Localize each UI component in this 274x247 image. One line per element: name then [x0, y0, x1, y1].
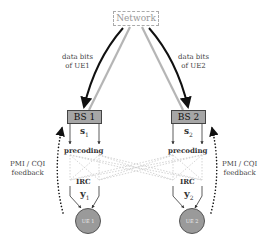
- ue2-antenna-right: [195, 196, 202, 208]
- irc-label-2: IRC: [180, 177, 195, 186]
- received-subscript: 1: [86, 194, 90, 201]
- label-line: data bits: [178, 53, 209, 62]
- irc-label-1: IRC: [76, 177, 91, 186]
- label-line: PMI / CQI: [10, 160, 45, 169]
- feedback-label-right: PMI / CQI feedback: [222, 160, 257, 178]
- label-line: PMI / CQI: [222, 160, 257, 169]
- signal-s1: s1: [80, 127, 89, 139]
- user-equipment-2: UE 2: [179, 208, 205, 234]
- received-y1: y1: [80, 189, 90, 202]
- label-line: feedback: [10, 169, 45, 178]
- data-bits-ue1-label: data bits of UE1: [62, 53, 93, 71]
- label-line: data bits: [62, 53, 93, 62]
- data-bits-ue2-label: data bits of UE2: [178, 53, 209, 71]
- ue1-antenna-right: [92, 196, 99, 208]
- backhaul-line-left-gray: [89, 27, 130, 110]
- diagram-canvas: [0, 0, 274, 247]
- ue2-antenna-left: [173, 196, 184, 208]
- signal-s2: s2: [184, 127, 193, 139]
- signal-subscript: 2: [189, 131, 193, 138]
- base-station-2: BS 2: [171, 110, 206, 124]
- feedback-arrow-right: [211, 128, 217, 213]
- label-line: feedback: [222, 169, 257, 178]
- precoding-label-1: precoding: [64, 146, 104, 155]
- label-line: of UE2: [178, 62, 209, 71]
- feedback-label-left: PMI / CQI feedback: [10, 160, 45, 178]
- label-line: of UE1: [62, 62, 93, 71]
- signal-subscript: 1: [85, 131, 89, 138]
- network-node: Network: [113, 11, 159, 26]
- precoding-label-2: precoding: [168, 146, 208, 155]
- received-subscript: 2: [190, 194, 194, 201]
- user-equipment-1: UE 1: [75, 208, 101, 234]
- received-y2: y2: [184, 189, 194, 202]
- backhaul-line-right-gray: [142, 27, 183, 110]
- base-station-1: BS 1: [67, 110, 102, 124]
- feedback-arrow-left: [57, 128, 63, 213]
